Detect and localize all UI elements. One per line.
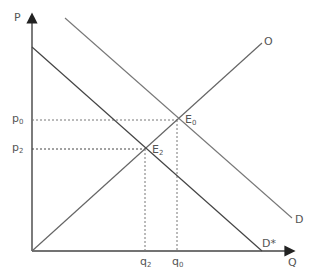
demand-star-label: D* <box>262 238 276 249</box>
demand-curve-D <box>65 18 292 218</box>
q2-label: q2 <box>140 256 151 269</box>
q-axis-label: Q <box>288 257 297 268</box>
e2-label: E2 <box>152 144 163 157</box>
p0-label: p0 <box>12 113 23 126</box>
supply-label-O: O <box>264 36 273 47</box>
p2-label: p2 <box>12 142 23 155</box>
demand-label-D: D <box>295 214 303 225</box>
e0-label: E0 <box>185 114 196 127</box>
q0-label: q0 <box>172 256 183 269</box>
p-axis-label: P <box>14 12 21 23</box>
supply-demand-diagram: P Q p0 p2 q2 q0 E0 E2 O D D* <box>0 0 314 276</box>
